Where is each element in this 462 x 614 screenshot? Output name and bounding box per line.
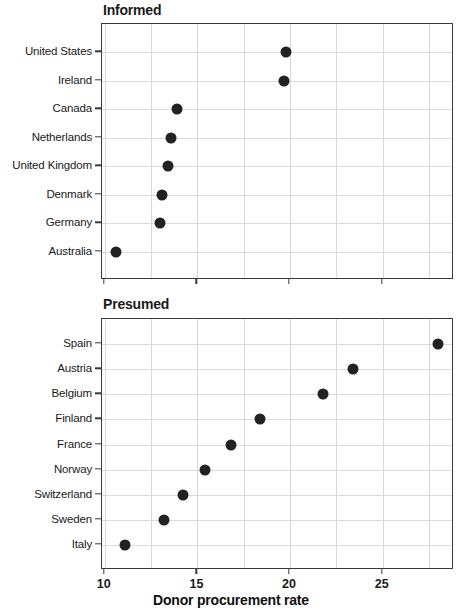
gridline-vertical: [244, 319, 245, 568]
data-point: [433, 339, 444, 350]
gridline-horizontal: [102, 109, 452, 110]
data-point: [162, 161, 173, 172]
gridline-horizontal: [102, 369, 452, 370]
gridline-vertical: [151, 24, 152, 278]
y-tick-mark: [95, 51, 101, 52]
y-tick-mark: [95, 393, 101, 394]
x-tick-mark: [381, 569, 382, 574]
y-tick-label: Switzerland: [34, 488, 92, 500]
gridline-vertical: [336, 319, 337, 568]
y-tick-label: Denmark: [46, 188, 92, 200]
gridline-vertical: [244, 24, 245, 278]
plot-area-informed: [101, 23, 453, 279]
gridline-vertical: [105, 319, 106, 568]
y-tick-label: Sweden: [51, 513, 92, 525]
gridline-vertical: [336, 24, 337, 278]
gridline-horizontal: [102, 252, 452, 253]
y-tick-mark: [95, 418, 101, 419]
y-tick-label: United States: [25, 45, 92, 57]
gridline-vertical: [429, 319, 430, 568]
gridline-horizontal: [102, 545, 452, 546]
data-point: [255, 414, 266, 425]
y-tick-mark: [95, 250, 101, 251]
y-tick-mark: [95, 108, 101, 109]
gridline-vertical: [290, 24, 291, 278]
gridline-horizontal: [102, 344, 452, 345]
gridline-horizontal: [102, 445, 452, 446]
data-point: [318, 389, 329, 400]
gridline-vertical: [429, 24, 430, 278]
gridline-vertical: [383, 319, 384, 568]
y-tick-mark: [95, 543, 101, 544]
gridline-horizontal: [102, 81, 452, 82]
y-tick-mark: [95, 221, 101, 222]
x-tick-mark: [196, 569, 197, 574]
data-point: [155, 218, 166, 229]
data-point: [279, 75, 290, 86]
x-tick-mark: [103, 279, 104, 284]
gridline-horizontal: [102, 470, 452, 471]
gridline-vertical: [290, 319, 291, 568]
y-tick-mark: [95, 136, 101, 137]
y-tick-label: Canada: [53, 102, 92, 114]
y-tick-label: Ireland: [58, 74, 92, 86]
gridline-vertical: [383, 24, 384, 278]
panel-title-presumed: Presumed: [103, 296, 169, 312]
x-tick-mark: [196, 279, 197, 284]
x-axis-title: Donor procurement rate: [0, 592, 462, 608]
data-point: [110, 246, 121, 257]
y-tick-label: Netherlands: [32, 131, 92, 143]
y-tick-mark: [95, 79, 101, 80]
y-tick-mark: [95, 443, 101, 444]
data-point: [281, 47, 292, 58]
gridline-horizontal: [102, 195, 452, 196]
data-point: [199, 464, 210, 475]
gridline-horizontal: [102, 520, 452, 521]
x-tick-label: 20: [282, 577, 296, 591]
y-tick-mark: [95, 518, 101, 519]
y-tick-mark: [95, 342, 101, 343]
data-point: [166, 132, 177, 143]
x-tick-label: 25: [375, 577, 389, 591]
y-tick-label: Germany: [46, 216, 92, 228]
y-tick-label: Australia: [49, 245, 92, 257]
gridline-horizontal: [102, 495, 452, 496]
y-tick-label: Italy: [72, 538, 92, 550]
gridline-vertical: [197, 24, 198, 278]
x-tick-label: 15: [189, 577, 203, 591]
y-tick-label: United Kingdom: [12, 159, 92, 171]
data-point: [120, 539, 131, 550]
y-tick-mark: [95, 468, 101, 469]
y-tick-mark: [95, 193, 101, 194]
x-tick-mark: [103, 569, 104, 574]
gridline-vertical: [151, 319, 152, 568]
data-point: [157, 189, 168, 200]
y-tick-label: Finland: [55, 412, 92, 424]
y-tick-mark: [95, 493, 101, 494]
x-tick-mark: [288, 569, 289, 574]
y-tick-label: Spain: [63, 337, 92, 349]
data-point: [225, 439, 236, 450]
gridline-horizontal: [102, 138, 452, 139]
y-tick-label: France: [57, 438, 92, 450]
gridline-horizontal: [102, 394, 452, 395]
gridline-horizontal: [102, 166, 452, 167]
y-tick-mark: [95, 165, 101, 166]
data-point: [172, 104, 183, 115]
data-point: [177, 489, 188, 500]
gridline-vertical: [105, 24, 106, 278]
y-tick-mark: [95, 367, 101, 368]
x-tick-mark: [381, 279, 382, 284]
x-tick-label: 10: [97, 577, 111, 591]
gridline-horizontal: [102, 419, 452, 420]
y-tick-label: Austria: [57, 362, 92, 374]
y-tick-label: Norway: [54, 463, 92, 475]
data-point: [348, 364, 359, 375]
chart-figure: Informed Presumed Donor procurement rate…: [0, 0, 462, 614]
y-tick-label: Belgium: [52, 387, 93, 399]
gridline-vertical: [197, 319, 198, 568]
panel-title-informed: Informed: [103, 2, 161, 18]
data-point: [159, 514, 170, 525]
gridline-horizontal: [102, 52, 452, 53]
plot-area-presumed: [101, 318, 453, 569]
